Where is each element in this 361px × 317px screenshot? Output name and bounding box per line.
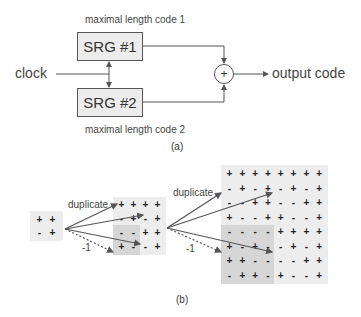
srg2-to-xor-arrow [143,85,224,102]
duplicate-arrow [65,229,140,244]
srg1-to-xor-arrow [143,46,224,63]
duplicate-arrow [65,215,143,229]
duplicate-arrow [167,193,272,228]
connector-lines [0,0,361,317]
duplicate-arrow [65,204,117,229]
negate-arrow [167,228,221,252]
duplicate-arrow [167,193,221,228]
duplicate-arrow [167,228,272,252]
negate-arrow [65,229,113,252]
